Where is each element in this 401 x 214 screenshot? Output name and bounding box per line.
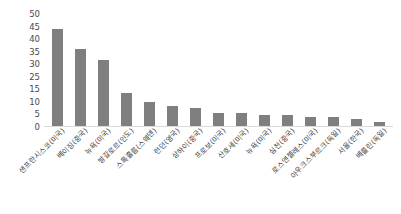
bar (190, 108, 201, 126)
bar-slot (276, 16, 299, 126)
bar-slot (161, 16, 184, 126)
bar-slot (322, 16, 345, 126)
bar-chart: 504540353025151050 샌프란시스코(미국)베이징(중국)뉴욕(미… (0, 0, 401, 214)
y-axis: 504540353025151050 (0, 10, 44, 132)
bar-slot (115, 16, 138, 126)
bar-slot (69, 16, 92, 126)
bar-slot (138, 16, 161, 126)
bar (167, 106, 178, 126)
bar-slot (92, 16, 115, 126)
y-axis-tick: 40 (0, 35, 40, 44)
bar (259, 115, 270, 126)
bar (98, 60, 109, 126)
bar (328, 117, 339, 126)
y-axis-tick: 45 (0, 23, 40, 32)
bar-series (46, 16, 391, 126)
bar-slot (46, 16, 69, 126)
bar-slot (299, 16, 322, 126)
y-axis-tick: 50 (0, 10, 40, 19)
bar (305, 117, 316, 126)
bar (236, 113, 247, 126)
bar-slot (230, 16, 253, 126)
y-axis-tick: 5 (0, 110, 40, 119)
bar-slot (184, 16, 207, 126)
bar (213, 113, 224, 126)
bar-slot (368, 16, 391, 126)
bar (75, 49, 86, 126)
y-axis-tick: 35 (0, 48, 40, 57)
bar (282, 115, 293, 126)
bar-slot (207, 16, 230, 126)
y-axis-tick: 0 (0, 123, 40, 132)
bar (144, 102, 155, 126)
bar (52, 29, 63, 126)
bar-slot (253, 16, 276, 126)
y-axis-tick: 10 (0, 98, 40, 107)
y-axis-tick: 15 (0, 85, 40, 94)
y-axis-tick: 25 (0, 73, 40, 82)
bar (351, 119, 362, 126)
bar-slot (345, 16, 368, 126)
y-axis-tick: 30 (0, 60, 40, 69)
x-axis-labels: 샌프란시스코(미국)베이징(중국)뉴욕(미국)방갈로르(인도)스톡홀름(스웨덴)… (46, 127, 391, 214)
bar (121, 93, 132, 126)
